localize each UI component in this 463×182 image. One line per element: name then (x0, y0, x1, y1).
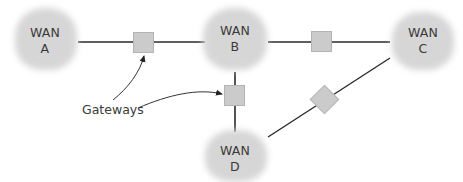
gateway-b-c (311, 31, 332, 52)
wan-b-label: WAN B (210, 23, 260, 55)
gateway-b-d (224, 85, 245, 106)
gateways-callout-label: Gateways (82, 102, 144, 117)
wan-a-label: WAN A (20, 25, 70, 57)
callout-arrow-2 (138, 92, 222, 108)
gateway-a-b (133, 32, 154, 53)
wan-c-label: WAN C (398, 25, 448, 57)
wan-d-label: WAN D (210, 143, 260, 175)
callout-arrow-1 (113, 56, 144, 100)
